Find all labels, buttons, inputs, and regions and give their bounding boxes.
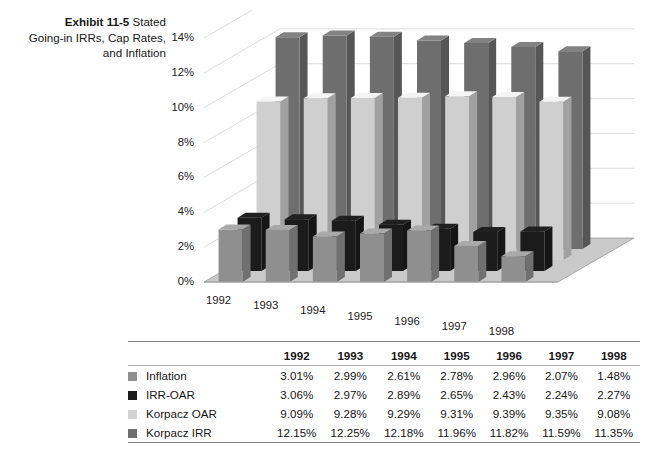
series-legend-cell: Inflation xyxy=(128,366,270,385)
table-cell: 11.82% xyxy=(483,423,535,442)
plot-area xyxy=(196,10,636,310)
y-tick-label: 12% xyxy=(171,66,194,78)
x-tick-label: 1997 xyxy=(442,320,467,332)
table-cell: 2.43% xyxy=(483,385,535,404)
table-cell: 9.31% xyxy=(431,404,483,423)
table-cell: 9.08% xyxy=(588,404,640,423)
table-cell: 9.09% xyxy=(270,404,324,423)
y-tick-label: 8% xyxy=(178,136,194,148)
table-cell: 9.28% xyxy=(324,404,378,423)
legend-swatch-icon xyxy=(128,372,137,381)
table-cell: 2.07% xyxy=(535,366,587,385)
table-cell: 12.18% xyxy=(377,423,431,442)
table-cell: 2.96% xyxy=(483,366,535,385)
table-cell: 3.06% xyxy=(270,385,324,404)
x-tick-label: 1995 xyxy=(347,310,372,322)
table-cell: 9.35% xyxy=(535,404,587,423)
table-cell: 2.97% xyxy=(324,385,378,404)
table-cell: 2.89% xyxy=(377,385,431,404)
table-corner-cell xyxy=(128,342,270,366)
table-header-rule xyxy=(128,365,640,366)
table-header-row: 1992199319941995199619971998 xyxy=(128,342,640,366)
table-body: Inflation3.01%2.99%2.61%2.78%2.96%2.07%1… xyxy=(128,366,640,442)
data-table: 1992199319941995199619971998 Inflation3.… xyxy=(128,342,640,442)
table-column-header: 1996 xyxy=(483,342,535,366)
x-tick-label: 1992 xyxy=(206,294,231,306)
chart-region: 0%2%4%6%8%10%12%14% 19921993199419951996… xyxy=(0,0,652,340)
table-cell: 11.96% xyxy=(431,423,483,442)
data-table-region: 1992199319941995199619971998 Inflation3.… xyxy=(128,341,640,443)
table-row: Inflation3.01%2.99%2.61%2.78%2.96%2.07%1… xyxy=(128,366,640,385)
series-legend-cell: IRR-OAR xyxy=(128,385,270,404)
series-label: Inflation xyxy=(146,369,187,382)
table-column-header: 1997 xyxy=(535,342,587,366)
y-tick-label: 14% xyxy=(171,31,194,43)
column-chart-3d xyxy=(196,10,636,310)
series-label: Korpacz IRR xyxy=(146,426,212,439)
table-column-header: 1995 xyxy=(431,342,483,366)
table-cell: 2.99% xyxy=(324,366,378,385)
table-cell: 2.24% xyxy=(535,385,587,404)
table-cell: 12.25% xyxy=(324,423,378,442)
x-tick-label: 1996 xyxy=(395,315,420,327)
series-label: IRR-OAR xyxy=(146,388,195,401)
table-bottom-rule xyxy=(128,442,640,443)
series-legend-cell: Korpacz IRR xyxy=(128,423,270,442)
legend-swatch-icon xyxy=(128,429,137,438)
table-cell: 2.27% xyxy=(588,385,640,404)
table-cell: 9.39% xyxy=(483,404,535,423)
x-tick-label: 1994 xyxy=(300,304,325,316)
table-column-header: 1998 xyxy=(588,342,640,366)
y-tick-label: 4% xyxy=(178,205,194,217)
y-tick-label: 2% xyxy=(178,240,194,252)
table-row: IRR-OAR3.06%2.97%2.89%2.65%2.43%2.24%2.2… xyxy=(128,385,640,404)
y-tick-label: 10% xyxy=(171,101,194,113)
y-tick-label: 0% xyxy=(178,275,194,287)
table-cell: 2.61% xyxy=(377,366,431,385)
legend-swatch-icon xyxy=(128,391,137,400)
table-column-header: 1993 xyxy=(324,342,378,366)
legend-swatch-icon xyxy=(128,410,137,419)
table-cell: 9.29% xyxy=(377,404,431,423)
series-label: Korpacz OAR xyxy=(146,407,217,420)
table-cell: 11.35% xyxy=(588,423,640,442)
table-cell: 1.48% xyxy=(588,366,640,385)
exhibit-page: Exhibit 11-5 Stated Going-in IRRs, Cap R… xyxy=(0,0,652,461)
series-legend-cell: Korpacz OAR xyxy=(128,404,270,423)
table-cell: 3.01% xyxy=(270,366,324,385)
y-tick-label: 6% xyxy=(178,170,194,182)
table-cell: 2.78% xyxy=(431,366,483,385)
table-row: Korpacz IRR12.15%12.25%12.18%11.96%11.82… xyxy=(128,423,640,442)
x-tick-label: 1998 xyxy=(489,325,514,337)
table-cell: 12.15% xyxy=(270,423,324,442)
table-row: Korpacz OAR9.09%9.28%9.29%9.31%9.39%9.35… xyxy=(128,404,640,423)
x-tick-label: 1993 xyxy=(253,299,278,311)
table-column-header: 1994 xyxy=(377,342,431,366)
table-column-header: 1992 xyxy=(270,342,324,366)
y-axis-tick-labels: 0%2%4%6%8%10%12%14% xyxy=(150,0,194,320)
table-cell: 11.59% xyxy=(535,423,587,442)
table-cell: 2.65% xyxy=(431,385,483,404)
